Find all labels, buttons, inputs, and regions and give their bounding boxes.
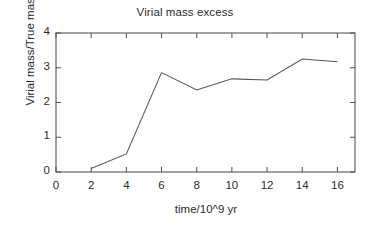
x-tick-label: 16 — [325, 179, 349, 191]
x-tick-label: 2 — [79, 179, 103, 191]
x-tick-label: 8 — [185, 179, 209, 191]
x-tick-label: 12 — [255, 179, 279, 191]
plot-area — [0, 0, 370, 230]
y-tick-label: 3 — [30, 60, 50, 72]
chart-figure: Virial mass excess Virial mass/True mass… — [0, 0, 370, 230]
axes-frame — [56, 33, 355, 172]
data-series-line — [91, 59, 337, 168]
y-tick-label: 0 — [30, 164, 50, 176]
x-tick-label: 6 — [150, 179, 174, 191]
y-tick-label: 4 — [30, 25, 50, 37]
x-tick-label: 0 — [44, 179, 68, 191]
y-tick-label: 1 — [30, 129, 50, 141]
y-tick-label: 2 — [30, 95, 50, 107]
x-tick-label: 10 — [220, 179, 244, 191]
x-tick-label: 14 — [290, 179, 314, 191]
x-tick-label: 4 — [114, 179, 138, 191]
axis-ticks — [56, 33, 355, 172]
